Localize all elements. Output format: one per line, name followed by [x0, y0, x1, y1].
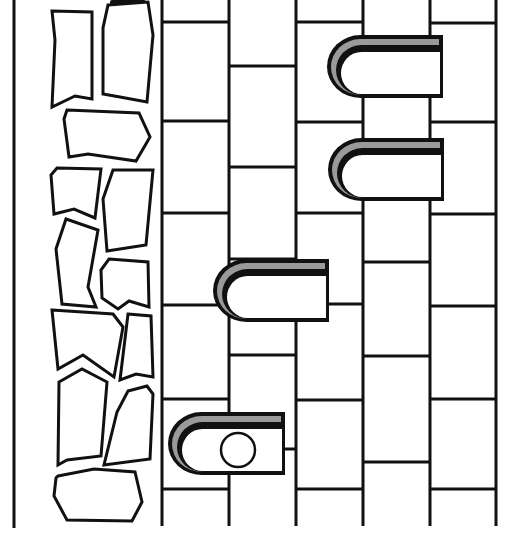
stepping-stone[interactable]	[51, 168, 101, 218]
stepping-stone[interactable]	[52, 310, 123, 377]
stepping-stone[interactable]	[58, 369, 107, 465]
stepping-stone[interactable]	[64, 110, 150, 161]
ledge[interactable]	[213, 259, 329, 322]
stepping-stone[interactable]	[120, 314, 153, 380]
ledge-face	[227, 276, 326, 318]
game-scene	[0, 0, 523, 545]
stepping-stone[interactable]	[52, 11, 92, 107]
ledges	[168, 35, 444, 475]
stepping-stone[interactable]	[103, 2, 153, 102]
climbing-wall-canvas[interactable]	[0, 0, 523, 545]
ball[interactable]	[221, 433, 255, 467]
ledge-face	[342, 155, 441, 197]
ledge-with-ball[interactable]	[168, 412, 285, 475]
stone-path	[51, 2, 153, 521]
stepping-stone[interactable]	[104, 386, 153, 465]
ledge-face	[341, 52, 440, 94]
ledge[interactable]	[328, 138, 444, 201]
stepping-stone[interactable]	[101, 259, 149, 309]
ledge[interactable]	[327, 35, 443, 98]
stepping-stone[interactable]	[103, 170, 153, 251]
stepping-stone[interactable]	[54, 469, 142, 521]
stepping-stone[interactable]	[56, 219, 98, 307]
